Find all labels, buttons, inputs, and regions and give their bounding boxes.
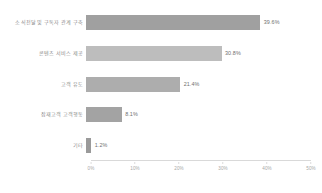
bar	[86, 138, 91, 153]
value-label: 21.4%	[184, 81, 200, 88]
chart-row: 잠재고객 고객행동 8.1%	[0, 101, 322, 127]
bar	[86, 15, 260, 30]
value-label: 39.6%	[264, 19, 280, 26]
bar	[86, 46, 222, 61]
tick-mark-icon	[179, 162, 180, 164]
category-label: 기타	[0, 142, 86, 149]
x-tick: 30%	[218, 162, 228, 173]
bar-track: 21.4%	[86, 71, 322, 97]
x-tick: 20%	[174, 162, 184, 173]
tick-mark-icon	[91, 162, 92, 164]
value-label: 8.1%	[125, 111, 138, 118]
x-tick: 40%	[262, 162, 272, 173]
bar-chart: 소식전달 및 구독자 관계 구축 39.6% 콘텐츠 서비스 제공 30.8% …	[0, 0, 322, 193]
bar	[86, 107, 122, 122]
bar-track: 30.8%	[86, 40, 322, 66]
value-label: 1.2%	[95, 142, 108, 149]
x-tick: 0%	[88, 162, 95, 173]
category-label: 잠재고객 고객행동	[0, 111, 86, 118]
bar-track: 1.2%	[86, 132, 322, 158]
x-tick-label: 50%	[306, 166, 316, 171]
bar	[86, 77, 180, 92]
tick-mark-icon	[311, 162, 312, 164]
tick-mark-icon	[267, 162, 268, 164]
chart-row: 콘텐츠 서비스 제공 30.8%	[0, 40, 322, 66]
x-tick-label: 10%	[130, 166, 140, 171]
bar-track: 8.1%	[86, 101, 322, 127]
category-label: 소식전달 및 구독자 관계 구축	[0, 19, 86, 26]
x-tick-label: 0%	[88, 166, 95, 171]
tick-mark-icon	[223, 162, 224, 164]
x-tick: 10%	[130, 162, 140, 173]
chart-row: 소식전달 및 구독자 관계 구축 39.6%	[0, 9, 322, 35]
x-axis-ticks: 0% 10% 20% 30% 40% 50%	[91, 162, 311, 176]
x-axis-line	[91, 160, 311, 161]
category-label: 콘텐츠 서비스 제공	[0, 50, 86, 57]
x-tick-label: 40%	[262, 166, 272, 171]
tick-mark-icon	[135, 162, 136, 164]
bar-track: 39.6%	[86, 9, 322, 35]
category-label: 고객 유도	[0, 81, 86, 88]
x-tick-label: 30%	[218, 166, 228, 171]
value-label: 30.8%	[225, 50, 241, 57]
chart-row: 기타 1.2%	[0, 132, 322, 158]
x-tick-label: 20%	[174, 166, 184, 171]
chart-row: 고객 유도 21.4%	[0, 71, 322, 97]
x-tick: 50%	[306, 162, 316, 173]
